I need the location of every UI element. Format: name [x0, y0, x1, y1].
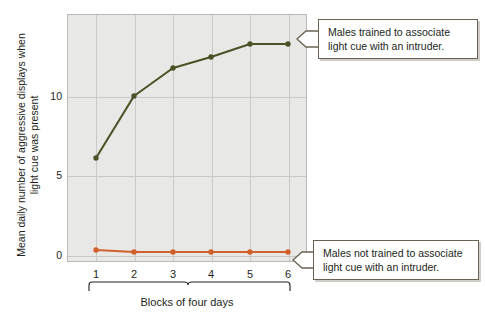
- gridline-vertical-5: [250, 15, 251, 261]
- gridline-horizontal-5: [68, 176, 306, 177]
- callout-trained: Males trained to associate light cue wit…: [318, 19, 478, 59]
- gridline-vertical-6: [289, 15, 290, 261]
- y-tick-10: 10: [50, 90, 62, 102]
- x-tick-3: 3: [170, 268, 176, 280]
- callout-untrained: Males not trained to associate light cue…: [313, 240, 479, 280]
- x-tick-1: 1: [93, 268, 99, 280]
- gridline-horizontal-0: [68, 256, 306, 257]
- x-axis-brace: [88, 281, 291, 292]
- gridline-vertical-3: [173, 15, 174, 261]
- x-tick-5: 5: [247, 268, 253, 280]
- gridline-vertical-2: [135, 15, 136, 261]
- x-tick-4: 4: [208, 268, 214, 280]
- gridline-horizontal-10: [68, 97, 306, 98]
- callout-trained-line2: light cue with an intruder.: [328, 40, 469, 54]
- y-axis-title: Mean daily number of aggressive displays…: [15, 29, 41, 261]
- y-tick-0: 0: [56, 249, 62, 261]
- x-axis-title: Blocks of four days: [68, 296, 306, 308]
- x-tick-6: 6: [285, 268, 291, 280]
- plot-area: [67, 14, 307, 262]
- figure-container: 10 5 0 Mean daily number of aggressive d…: [0, 0, 485, 315]
- x-tick-2: 2: [131, 268, 137, 280]
- callout-untrained-line2: light cue with an intruder.: [323, 261, 470, 275]
- callout-untrained-line1: Males not trained to associate: [323, 247, 470, 261]
- gridline-vertical-1: [96, 15, 97, 261]
- y-axis-title-wrap: Mean daily number of aggressive displays…: [0, 0, 1, 1]
- gridline-vertical-4: [212, 15, 213, 261]
- callout-trained-line1: Males trained to associate: [328, 26, 469, 40]
- y-axis-ticks: 10 5 0: [38, 0, 62, 315]
- y-tick-5: 5: [56, 169, 62, 181]
